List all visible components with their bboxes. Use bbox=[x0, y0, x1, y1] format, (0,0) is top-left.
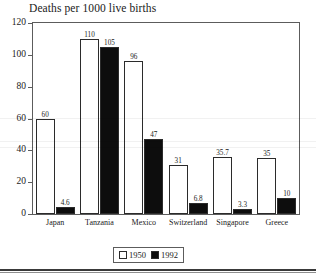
y-axis-tick-mark bbox=[28, 150, 32, 151]
y-axis-tick-mark bbox=[28, 119, 32, 120]
bar-tanzania-1992[interactable]: 105 bbox=[100, 47, 119, 214]
y-axis-tick-label: 20 bbox=[17, 177, 27, 187]
chart-legend: 19501992 bbox=[113, 247, 184, 263]
bar-singapore-1950[interactable]: 35.7 bbox=[213, 157, 232, 214]
legend-label: 1992 bbox=[161, 251, 178, 260]
bar-value-label: 110 bbox=[84, 31, 95, 39]
bar-tanzania-1950[interactable]: 110 bbox=[80, 39, 99, 214]
bar-value-label: 60 bbox=[42, 111, 49, 119]
bar-japan-1992[interactable]: 4.6 bbox=[56, 207, 75, 214]
bar-value-label: 4.6 bbox=[61, 199, 70, 207]
chart-title: Deaths per 1000 live births bbox=[29, 1, 156, 15]
bar-group: 9647 bbox=[124, 23, 163, 214]
bar-japan-1950[interactable]: 60 bbox=[36, 119, 55, 215]
bar-value-label: 35.7 bbox=[216, 149, 229, 157]
bar-mexico-1950[interactable]: 96 bbox=[124, 61, 143, 214]
bar-chart-figure: Deaths per 1000 live births 120100806040… bbox=[0, 0, 316, 276]
bar-value-label: 96 bbox=[130, 53, 137, 61]
x-axis: JapanTanzaniaMexicoSwitzerlandSingaporeG… bbox=[33, 218, 299, 232]
legend-swatch-black bbox=[151, 251, 159, 259]
y-axis-tick-mark bbox=[28, 23, 32, 24]
x-axis-tick-japan: Japan bbox=[46, 218, 64, 228]
y-axis-tick-mark bbox=[28, 87, 32, 88]
y-axis-tick-label: 80 bbox=[17, 82, 27, 92]
y-axis-tick-mark bbox=[28, 214, 32, 215]
bar-value-label: 47 bbox=[150, 131, 157, 139]
bar-value-label: 6.8 bbox=[194, 195, 203, 203]
bar-group: 110105 bbox=[80, 23, 119, 214]
y-axis-tick-label: 100 bbox=[12, 50, 26, 60]
x-axis-tick-greece: Greece bbox=[266, 218, 289, 228]
bar-value-label: 35 bbox=[263, 150, 270, 158]
bar-group: 316.8 bbox=[169, 23, 208, 214]
x-axis-tick-switzerland: Switzerland bbox=[169, 218, 207, 228]
y-axis-tick-mark bbox=[28, 182, 32, 183]
y-axis-tick-label: 40 bbox=[17, 145, 27, 155]
bar-mexico-1992[interactable]: 47 bbox=[144, 139, 163, 214]
legend-label: 1950 bbox=[129, 251, 146, 260]
page-divider-rule bbox=[0, 269, 316, 271]
bar-value-label: 3.3 bbox=[238, 201, 247, 209]
bar-value-label: 31 bbox=[175, 157, 182, 165]
y-axis: 120100806040200 bbox=[0, 0, 30, 276]
page-divider-rule-secondary bbox=[0, 272, 316, 273]
legend-entry-1992[interactable]: 1992 bbox=[151, 251, 178, 260]
legend-swatch-white bbox=[119, 251, 127, 259]
y-axis-tick-label: 120 bbox=[12, 18, 26, 28]
y-axis-tick-label: 0 bbox=[21, 209, 26, 219]
bar-value-label: 10 bbox=[283, 190, 290, 198]
bar-group: 3510 bbox=[257, 23, 296, 214]
bar-group: 604.6 bbox=[36, 23, 75, 214]
x-axis-tick-mexico: Mexico bbox=[132, 218, 156, 228]
bar-group: 35.73.3 bbox=[213, 23, 252, 214]
x-axis-tick-tanzania: Tanzania bbox=[85, 218, 114, 228]
bar-switzerland-1992[interactable]: 6.8 bbox=[189, 203, 208, 214]
bar-greece-1950[interactable]: 35 bbox=[257, 158, 276, 214]
bars-layer: 604.61101059647316.835.73.33510 bbox=[33, 23, 299, 214]
legend-entry-1950[interactable]: 1950 bbox=[119, 251, 146, 260]
y-axis-tick-mark bbox=[28, 55, 32, 56]
bar-greece-1992[interactable]: 10 bbox=[277, 198, 296, 214]
y-axis-tick-label: 60 bbox=[17, 114, 27, 124]
bar-switzerland-1950[interactable]: 31 bbox=[169, 165, 188, 214]
bar-singapore-1992[interactable]: 3.3 bbox=[233, 209, 252, 214]
x-axis-tick-singapore: Singapore bbox=[216, 218, 248, 228]
bar-value-label: 105 bbox=[104, 39, 115, 47]
